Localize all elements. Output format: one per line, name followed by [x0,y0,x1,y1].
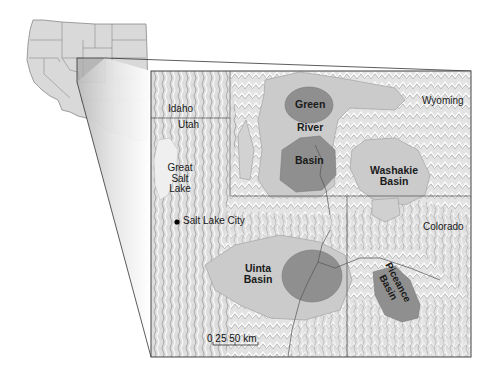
map-figure: Idaho Utah Wyoming Colorado Great Salt L… [0,0,494,376]
label-wyoming: Wyoming [422,96,464,107]
label-green: Green [295,99,325,110]
salt-lake-city-marker [174,219,179,224]
callout-connector [77,58,151,357]
label-basin-green-river: Basin [295,155,324,166]
label-great-salt-lake: Great Salt Lake [167,163,192,195]
label-colorado: Colorado [423,222,464,233]
label-uinta-basin: Uinta Basin [244,263,273,285]
uinta-basin-core [282,250,342,302]
label-washakie-basin: Washakie Basin [370,165,418,187]
label-river: River [297,122,323,133]
scale-bar-label: 0 25 50 km [207,333,256,344]
label-salt-lake-city: Salt Lake City [183,216,245,227]
main-map [151,71,471,357]
label-utah: Utah [178,120,199,131]
label-idaho: Idaho [168,104,193,115]
